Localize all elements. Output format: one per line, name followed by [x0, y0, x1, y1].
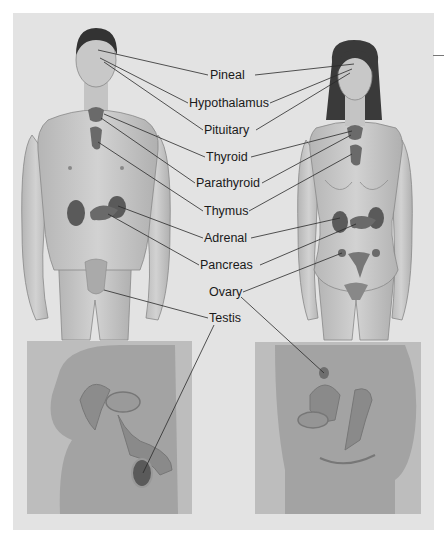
female-kidney-left [332, 211, 348, 233]
male-testis-inset [132, 459, 152, 487]
male-pelvis-drawing [51, 345, 178, 514]
label-adrenal: Adrenal [204, 231, 247, 245]
label-parathyroid: Parathyroid [196, 176, 260, 190]
female-thyroid-gland [347, 125, 363, 140]
label-pineal: Pineal [210, 68, 245, 82]
label-hypothalamus: Hypothalamus [189, 96, 269, 110]
label-pancreas: Pancreas [200, 258, 253, 272]
label-thymus: Thymus [204, 204, 248, 218]
female-figure [298, 40, 413, 340]
male-kidney-left [67, 200, 85, 226]
male-figure [22, 28, 171, 340]
label-thyroid: Thyroid [206, 150, 248, 164]
female-ovary-right [372, 249, 380, 257]
female-pelvis-drawing [275, 345, 416, 514]
label-testis: Testis [209, 311, 241, 325]
label-pituitary: Pituitary [204, 123, 249, 137]
male-thyroid-gland [88, 107, 104, 122]
label-ovary: Ovary [209, 285, 242, 299]
